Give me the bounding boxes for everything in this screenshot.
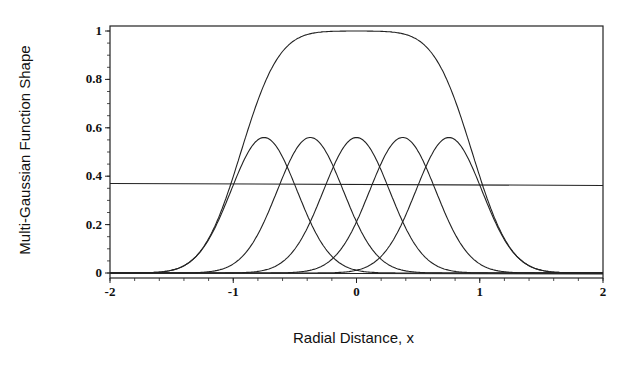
gaussian-curve-4	[110, 138, 603, 274]
sum-curve	[110, 31, 603, 273]
threshold-line	[110, 183, 603, 185]
x-axis-label: Radial Distance, x	[293, 329, 414, 346]
plot-frame	[110, 26, 603, 278]
x-tick-label: -2	[105, 284, 116, 299]
gaussian-curve-1	[110, 138, 603, 274]
x-tick-label: -1	[228, 284, 239, 299]
y-tick-label: 0	[96, 265, 103, 280]
y-tick-label: 0.2	[86, 217, 102, 232]
gaussian-curve-5	[110, 138, 603, 274]
x-tick-label: 2	[600, 284, 607, 299]
chart-canvas: 00.20.40.60.81-2-1012	[0, 0, 640, 375]
gaussian-curve-2	[110, 138, 603, 274]
y-tick-label: 1	[96, 23, 103, 38]
gaussian-curve-3	[110, 138, 603, 274]
y-tick-label: 0.8	[86, 71, 103, 86]
y-tick-label: 0.6	[86, 120, 103, 135]
x-tick-label: 1	[477, 284, 484, 299]
x-tick-label: 0	[353, 284, 360, 299]
y-axis-label: Multi-Gaussian Function Shape	[16, 45, 33, 254]
y-tick-label: 0.4	[86, 168, 103, 183]
